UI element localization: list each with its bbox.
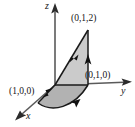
x-axis-label: x [26,111,30,121]
coordinate-diagram: (0,1,2) (0,1,0) (1,0,0) z y x [0,0,135,127]
z-axis-label: z [45,1,49,11]
diagram-canvas [0,0,135,127]
z-axis-arrowhead [51,3,59,14]
point-label-1-0-0: (1,0,0) [9,87,34,97]
y-axis-label: y [121,86,125,96]
point-label-0-1-0: (0,1,0) [85,71,110,81]
point-label-0-1-2: (0,1,2) [71,14,96,24]
